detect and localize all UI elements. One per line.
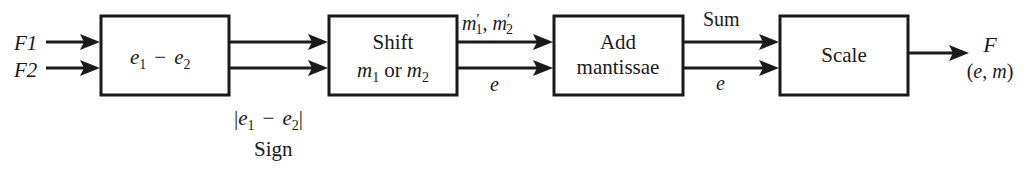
label-add-exponent: e	[716, 72, 725, 94]
block-scale-title: Scale	[821, 43, 866, 67]
block-shift-title: Shift	[373, 30, 414, 54]
label-shift-exponent: e	[490, 73, 499, 95]
input-arrow-f1	[46, 34, 100, 50]
label-shifted-mantissas: m′1,m′2	[462, 12, 513, 37]
label-sum: Sum	[703, 8, 740, 30]
output-label-em: (e,m)	[967, 60, 1014, 83]
label-abs-exponent-difference: |e1−e2|	[234, 106, 303, 133]
block-exponent-difference: e1−e2	[101, 16, 229, 95]
block-scale: Scale	[780, 16, 908, 95]
input-label-f2: F2	[13, 58, 38, 82]
block-exponent-difference-label: e1−e2	[130, 45, 191, 72]
arrow-diff-to-shift-top	[230, 34, 328, 50]
block-add-mantissae: Add mantissae	[554, 16, 683, 95]
input-arrow-f2	[46, 60, 100, 76]
arrow-add-to-scale-top	[684, 34, 779, 50]
label-sign: Sign	[254, 137, 293, 161]
arrow-diff-to-shift-bottom	[230, 60, 328, 76]
arrow-shift-to-add-bottom	[458, 60, 553, 76]
arrow-add-to-scale-bottom	[684, 60, 779, 76]
floating-point-adder-diagram: F1 F2 e1−e2 |e1−e2| Sign Shift m1orm2	[0, 0, 1025, 180]
block-shift-subtitle: m1orm2	[357, 58, 429, 85]
block-shift: Shift m1orm2	[329, 16, 457, 95]
output-label-f: F	[982, 32, 997, 57]
block-add-subtitle: mantissae	[577, 55, 660, 79]
input-label-f1: F1	[13, 31, 37, 55]
block-add-title: Add	[600, 30, 637, 54]
output-arrow	[909, 45, 969, 61]
